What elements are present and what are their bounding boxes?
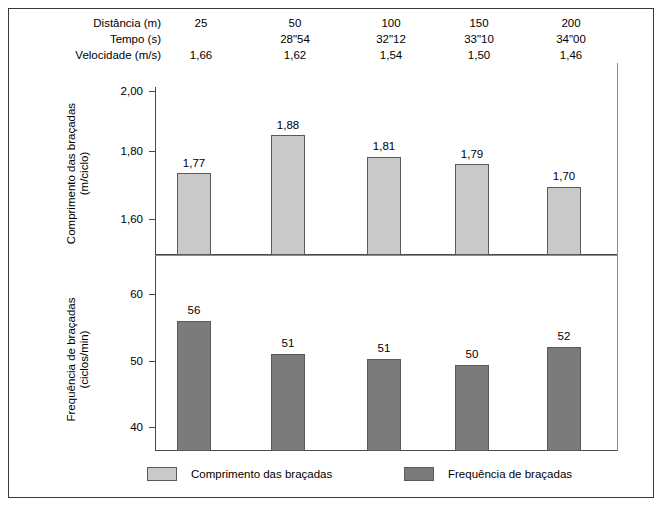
bar-value-label: 1,88	[261, 119, 315, 132]
bar-comprimento-100	[367, 157, 401, 255]
y-tick-label: 1,60	[99, 213, 143, 225]
bar-value-label: 1,81	[357, 140, 411, 153]
legend-swatch-icon	[404, 467, 434, 481]
bar-value-label: 1,79	[445, 148, 499, 161]
y-tick-label: 1,80	[99, 145, 143, 157]
bar-value-label: 1,70	[537, 170, 591, 183]
legend-swatch-icon	[147, 467, 177, 481]
bar-comprimento-150	[455, 164, 489, 255]
y-tick-label: 40	[99, 421, 143, 433]
y-axis-title-line2: (m/ciclo)	[78, 94, 91, 254]
bar-value-label: 51	[357, 342, 411, 355]
y-tick-bottom-0	[149, 427, 156, 428]
y-tick-label: 2,00	[99, 85, 143, 97]
bar-value-label: 51	[261, 337, 315, 350]
legend-label: Comprimento das braçadas	[191, 465, 332, 483]
y-tick-top-1	[149, 151, 156, 152]
bar-comprimento-50	[271, 135, 305, 255]
bar-comprimento-200	[547, 187, 581, 255]
figure-frame: Distância (m) 25 50 100 150 200 Tempo (s…	[8, 8, 654, 498]
panel-frequencia-de-bracadas: 60 50 40 Frequência de braçadas (ciclos/…	[9, 255, 655, 461]
bar-value-label: 52	[537, 330, 591, 343]
y-tick-bottom-1	[149, 361, 156, 362]
panel-comprimento-das-bracadas: 2,00 1,80 1,60 Comprimento das braçadas …	[9, 9, 655, 264]
y-tick-top-2	[149, 91, 156, 92]
bar-frequencia-150	[455, 365, 489, 451]
panel-divider-line	[155, 255, 618, 256]
bar-frequencia-200	[547, 347, 581, 451]
bar-frequencia-25	[177, 321, 211, 451]
y-tick-label: 60	[99, 288, 143, 300]
bar-frequencia-50	[271, 354, 305, 451]
chart-legend: Comprimento das braçadas Frequência de b…	[9, 461, 655, 495]
bar-comprimento-25	[177, 173, 211, 255]
bar-value-label: 1,77	[167, 157, 221, 170]
bar-value-label: 50	[445, 348, 499, 361]
y-axis-line-bottom	[155, 255, 156, 451]
y-axis-title-line1: Frequência de braçadas	[65, 280, 78, 440]
y-tick-label: 50	[99, 355, 143, 367]
legend-label: Frequência de braçadas	[448, 465, 572, 483]
y-axis-title-line1: Comprimento das braçadas	[65, 94, 78, 254]
y-tick-top-0	[149, 219, 156, 220]
y-axis-title-line2: (ciclos/min)	[78, 280, 91, 440]
bar-frequencia-100	[367, 359, 401, 451]
y-axis-line-top	[155, 87, 156, 255]
panel-right-edge-top	[617, 63, 618, 255]
bar-value-label: 56	[167, 304, 221, 317]
y-tick-bottom-2	[149, 294, 156, 295]
panel-right-edge-bottom	[617, 255, 618, 451]
